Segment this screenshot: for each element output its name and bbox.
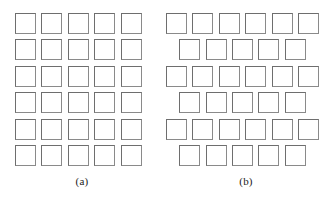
lattice-square bbox=[41, 119, 62, 140]
lattice-square bbox=[68, 39, 89, 60]
lattice-square bbox=[272, 66, 293, 87]
lattice-square bbox=[166, 66, 187, 87]
lattice-square bbox=[219, 13, 240, 34]
lattice-square bbox=[68, 13, 89, 34]
lattice-square bbox=[121, 13, 142, 34]
lattice-square bbox=[285, 92, 306, 113]
lattice-square bbox=[41, 145, 62, 166]
lattice-square bbox=[206, 92, 227, 113]
lattice-square bbox=[179, 145, 200, 166]
lattice-square bbox=[258, 39, 279, 60]
lattice-square bbox=[192, 66, 213, 87]
lattice-square bbox=[192, 13, 213, 34]
lattice-square bbox=[245, 119, 266, 140]
lattice-square bbox=[41, 39, 62, 60]
lattice-row bbox=[15, 145, 147, 171]
lattice-square bbox=[94, 13, 115, 34]
lattice-square bbox=[285, 39, 306, 60]
lattice-square bbox=[298, 13, 319, 34]
lattice-square bbox=[15, 39, 36, 60]
lattice-square bbox=[298, 119, 319, 140]
lattice-square bbox=[68, 92, 89, 113]
lattice-square bbox=[206, 145, 227, 166]
lattice-square bbox=[121, 39, 142, 60]
lattice-row bbox=[15, 92, 147, 118]
lattice-square bbox=[41, 66, 62, 87]
figure-container: (a) (b) bbox=[0, 0, 328, 201]
lattice-square bbox=[15, 145, 36, 166]
lattice-square bbox=[15, 13, 36, 34]
lattice-square bbox=[245, 13, 266, 34]
lattice-square bbox=[166, 13, 187, 34]
lattice-square bbox=[166, 119, 187, 140]
lattice-square bbox=[41, 92, 62, 113]
lattice-square bbox=[94, 119, 115, 140]
lattice-square bbox=[121, 119, 142, 140]
lattice-b bbox=[166, 13, 324, 171]
lattice-square bbox=[206, 39, 227, 60]
lattice-square bbox=[68, 119, 89, 140]
lattice-square bbox=[68, 145, 89, 166]
lattice-row bbox=[15, 66, 147, 92]
lattice-square bbox=[15, 66, 36, 87]
lattice-square bbox=[121, 145, 142, 166]
lattice-square bbox=[258, 92, 279, 113]
lattice-square bbox=[179, 39, 200, 60]
lattice-row bbox=[166, 119, 324, 145]
lattice-square bbox=[272, 119, 293, 140]
lattice-row bbox=[166, 13, 324, 39]
panel-a-caption: (a) bbox=[0, 175, 164, 187]
panel-b: (b) bbox=[164, 0, 328, 201]
panel-b-caption: (b) bbox=[164, 175, 328, 187]
lattice-square bbox=[272, 13, 293, 34]
lattice-row bbox=[15, 13, 147, 39]
lattice-square bbox=[219, 66, 240, 87]
lattice-square bbox=[298, 66, 319, 87]
lattice-square bbox=[94, 145, 115, 166]
lattice-square bbox=[285, 145, 306, 166]
lattice-square bbox=[232, 39, 253, 60]
lattice-square bbox=[68, 66, 89, 87]
panel-a: (a) bbox=[0, 0, 164, 201]
lattice-square bbox=[94, 66, 115, 87]
lattice-square bbox=[232, 92, 253, 113]
lattice-square bbox=[219, 119, 240, 140]
lattice-square bbox=[121, 92, 142, 113]
lattice-row bbox=[166, 39, 324, 65]
lattice-row bbox=[166, 145, 324, 171]
lattice-square bbox=[94, 39, 115, 60]
lattice-square bbox=[94, 92, 115, 113]
lattice-square bbox=[41, 13, 62, 34]
lattice-square bbox=[258, 145, 279, 166]
lattice-square bbox=[15, 92, 36, 113]
lattice-square bbox=[15, 119, 36, 140]
lattice-row bbox=[15, 119, 147, 145]
lattice-row bbox=[166, 66, 324, 92]
lattice-square bbox=[192, 119, 213, 140]
lattice-square bbox=[121, 66, 142, 87]
lattice-row bbox=[166, 92, 324, 118]
lattice-square bbox=[232, 145, 253, 166]
lattice-a bbox=[15, 13, 147, 171]
lattice-row bbox=[15, 39, 147, 65]
lattice-square bbox=[245, 66, 266, 87]
lattice-square bbox=[179, 92, 200, 113]
